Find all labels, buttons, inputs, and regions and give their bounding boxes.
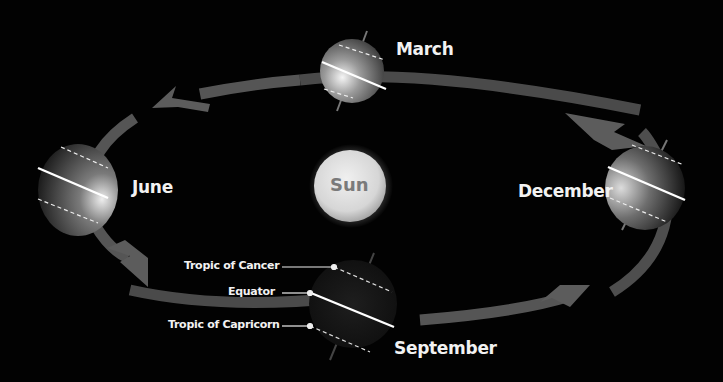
earth-june <box>38 144 118 236</box>
orbit-arrow-icon <box>107 240 148 287</box>
earth-september <box>309 253 397 360</box>
earth-december <box>605 140 685 230</box>
label-equator: Equator <box>228 285 275 298</box>
label-september: September <box>394 338 497 358</box>
label-tropic-of-cancer: Tropic of Cancer <box>184 259 279 272</box>
label-june: June <box>132 177 173 197</box>
label-tropic-of-capricorn: Tropic of Capricorn <box>168 318 280 331</box>
orbit-arrow-icon <box>565 113 646 150</box>
earth-march <box>320 31 386 111</box>
label-december: December <box>518 181 613 201</box>
orbit-diagram: Sun March June September December Tropic… <box>0 0 723 382</box>
label-march: March <box>396 39 453 59</box>
sun-label: Sun <box>330 174 369 195</box>
